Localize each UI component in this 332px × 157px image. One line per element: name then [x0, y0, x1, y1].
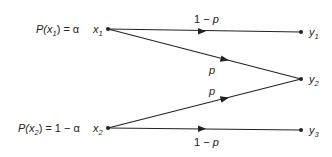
node-y3: [299, 128, 303, 132]
edge-x1-y2: [108, 29, 301, 79]
arrow-icon: [198, 126, 206, 132]
input-label-x1: x1: [92, 23, 103, 38]
output-label-y3: y3: [308, 124, 320, 139]
prob-label-x1: P(x1) = α: [36, 23, 80, 38]
arrow-icon: [198, 28, 206, 35]
edge-label-x1-y2: p: [208, 64, 215, 76]
arrow-icon: [220, 55, 229, 61]
prob-label-x2: P(x2) = 1 − α: [18, 122, 81, 137]
node-x1: [106, 27, 110, 31]
node-y2: [299, 77, 303, 81]
edge-label-x2-y2: p: [208, 85, 215, 97]
edge-label-x2-y3: 1 − p: [194, 136, 219, 148]
input-label-x2: x2: [92, 122, 104, 137]
node-x2: [106, 126, 110, 130]
output-label-y1: y1: [308, 26, 319, 41]
edge-x2-y2: [108, 79, 301, 128]
node-y1: [299, 30, 303, 34]
edge-label-x1-y1: 1 − p: [194, 13, 219, 25]
channel-diagram: P(x1) = α P(x2) = 1 − α x1 x2 y1 y2 y3 1…: [0, 0, 332, 157]
output-label-y2: y2: [308, 73, 320, 88]
